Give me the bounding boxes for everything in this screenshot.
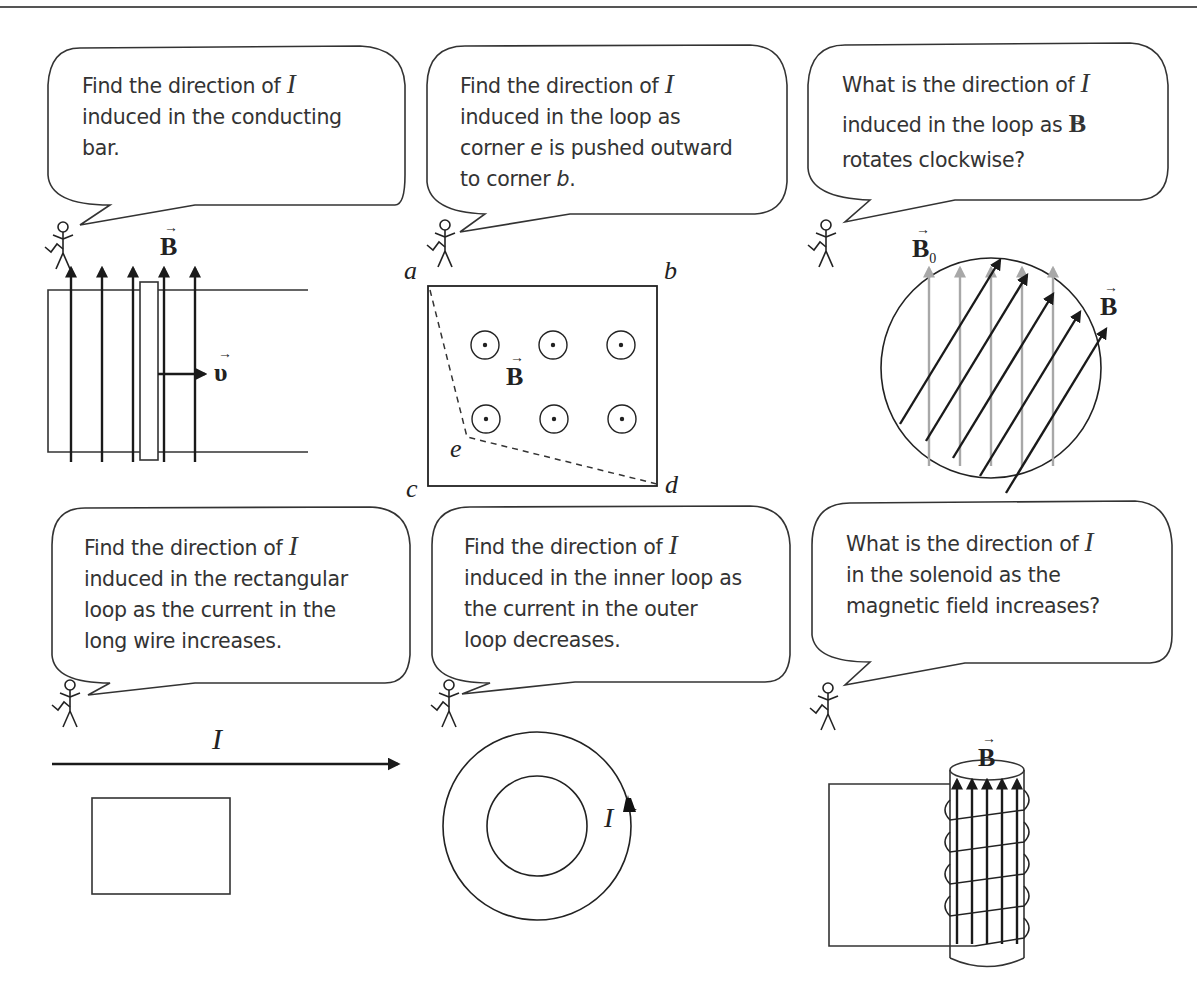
question-text-long-wire: Find the direction of I induced in the r… <box>84 531 348 657</box>
stick-figure-icon <box>808 220 836 267</box>
stick-figure-icon <box>427 220 455 267</box>
current-symbol: I <box>665 69 674 99</box>
question-text-rotating-field: What is the direction of I induced in th… <box>842 66 1089 173</box>
velocity-label-v: →υ <box>214 358 228 388</box>
external-circuit <box>829 784 975 946</box>
corner-label-b: b <box>664 256 677 286</box>
corner-label-d: d <box>665 470 678 500</box>
current-symbol: I <box>289 531 298 561</box>
dot-in-circle-icon-group <box>471 331 636 433</box>
initial-field-arrows <box>929 268 1053 466</box>
question-text-conducting-bar: Find the direction of I induced in the c… <box>82 69 342 164</box>
stick-figure-icon <box>52 680 80 727</box>
corner-label-a: a <box>404 256 417 286</box>
wire-current-label: I <box>212 722 222 756</box>
corner-label-c: c <box>406 474 418 504</box>
rotated-field-label-b: →B <box>1100 292 1117 322</box>
field-label-b: →B <box>160 232 177 262</box>
field-label-b: →B <box>506 362 523 392</box>
current-symbol: I <box>1085 527 1094 557</box>
stick-figure-icon <box>810 683 838 730</box>
rectangular-loop <box>92 798 230 894</box>
corner-label-e: e <box>450 434 462 464</box>
magnetic-field-arrows <box>71 268 195 462</box>
solenoid-field-arrows <box>957 780 1017 944</box>
question-text-solenoid: What is the direction of I in the soleno… <box>846 527 1100 622</box>
dashed-deformed-loop <box>430 290 657 484</box>
initial-field-label-b0: →B0 <box>912 234 936 267</box>
current-symbol: I <box>1081 68 1090 98</box>
question-text-deforming-loop: Find the direction of I induced in the l… <box>460 69 732 195</box>
rail-track <box>48 290 308 452</box>
outer-loop-current-label: I <box>604 802 613 834</box>
outer-loop <box>443 732 631 920</box>
current-symbol: I <box>669 530 678 560</box>
rotated-field-arrows <box>900 260 1106 493</box>
conducting-bar <box>140 282 158 460</box>
stick-figure-icon <box>45 222 73 269</box>
current-symbol: I <box>287 69 296 99</box>
stick-figure-icon <box>431 680 459 727</box>
square-loop <box>428 286 657 486</box>
field-vector-symbol: →B <box>1069 109 1086 138</box>
inner-loop <box>487 776 587 876</box>
question-text-concentric-loops: Find the direction of I induced in the i… <box>464 530 742 656</box>
solenoid-field-label-b: →B <box>978 743 995 773</box>
